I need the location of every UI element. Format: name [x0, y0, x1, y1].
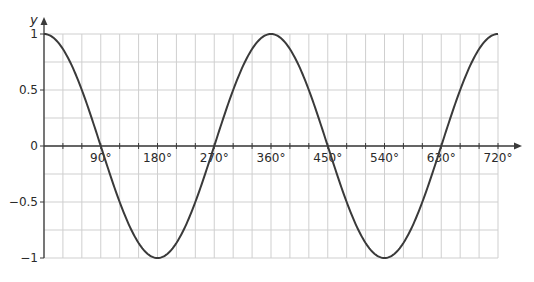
y-axis-arrow-icon — [41, 17, 48, 25]
y-tick-label: −1 — [20, 251, 38, 265]
x-tick-label: 450° — [313, 151, 342, 165]
y-axis-title: y — [29, 12, 38, 27]
y-tick-labels: 10.50−0.5−1 — [9, 27, 44, 265]
x-tick-label: 90° — [90, 151, 111, 165]
y-tick-label: 0.5 — [19, 83, 38, 97]
x-tick-label: 720° — [484, 151, 513, 165]
x-tick-label: 630° — [427, 151, 456, 165]
cosine-chart: y 10.50−0.5−1 90°180°270°360°450°540°630… — [0, 0, 534, 282]
y-tick-label: 1 — [30, 27, 38, 41]
x-tick-label: 360° — [257, 151, 286, 165]
x-tick-label: 540° — [370, 151, 399, 165]
y-tick-label: −0.5 — [9, 195, 38, 209]
x-tick-label: 180° — [143, 151, 172, 165]
axes: y — [29, 12, 522, 258]
x-axis-arrow-icon — [514, 143, 522, 150]
y-tick-label: 0 — [30, 139, 38, 153]
x-tick-label: 270° — [200, 151, 229, 165]
